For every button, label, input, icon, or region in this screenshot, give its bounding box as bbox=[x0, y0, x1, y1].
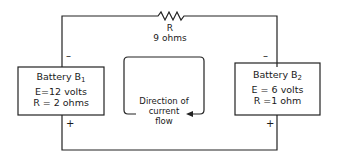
current-direction-label: Direction of current flow bbox=[130, 96, 198, 126]
battery-b1-emf: E=12 volts bbox=[18, 86, 104, 97]
battery-b2-negative: – bbox=[263, 51, 268, 61]
resistor-value: 9 ohms bbox=[140, 33, 200, 44]
battery-b2-resistance: R =1 ohm bbox=[235, 95, 320, 106]
battery-b1-positive: + bbox=[66, 119, 74, 129]
battery-b2-emf: E = 6 volts bbox=[235, 84, 320, 95]
battery-b1-label: Battery B1 E=12 volts R = 2 ohms bbox=[18, 71, 104, 108]
battery-b1-resistance: R = 2 ohms bbox=[18, 97, 104, 108]
battery-b2-positive: + bbox=[266, 119, 274, 129]
battery-b2-label: Battery B2 E = 6 volts R =1 ohm bbox=[235, 69, 320, 106]
battery-b1-negative: – bbox=[66, 51, 71, 61]
